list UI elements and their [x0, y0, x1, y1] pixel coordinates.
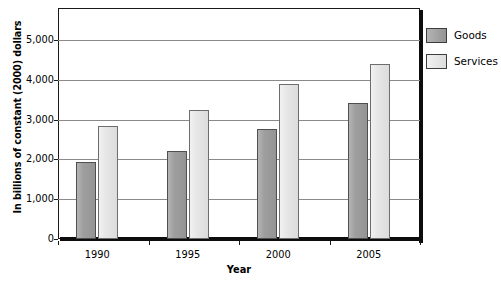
y-tick-label: 3,000	[6, 115, 54, 125]
gridline	[58, 40, 420, 41]
x-tick-mark	[58, 241, 59, 245]
y-axis-tick-labels: 01,0002,0003,0004,0005,000	[0, 0, 54, 282]
x-tick-label: 2000	[248, 249, 308, 260]
plot-right-edge	[419, 10, 423, 243]
bar-services-1990	[98, 126, 118, 239]
x-tick-label: 1990	[67, 249, 127, 260]
y-tick-label: 1,000	[6, 194, 54, 204]
legend-label-services: Services	[454, 55, 498, 67]
legend-item-services: Services	[426, 50, 501, 72]
legend-swatch-goods	[426, 28, 447, 43]
legend-label-goods: Goods	[454, 29, 487, 41]
y-tick-label: 2,000	[6, 154, 54, 164]
bar-goods-1990	[76, 162, 96, 239]
legend-swatch-services	[426, 54, 447, 69]
bar-goods-2005	[348, 103, 368, 239]
y-tick-label: 0	[6, 234, 54, 244]
y-tick-label: 4,000	[6, 75, 54, 85]
legend-item-goods: Goods	[426, 24, 501, 46]
bar-chart: In billions of constant (2000) dollars 0…	[0, 0, 501, 282]
x-tick-mark	[420, 241, 421, 245]
x-tick-label: 1995	[158, 249, 218, 260]
x-tick-mark	[330, 241, 331, 245]
x-tick-mark	[149, 241, 150, 245]
y-tick-mark	[54, 239, 58, 240]
bar-services-2000	[279, 84, 299, 239]
x-axis-title: Year	[58, 264, 420, 275]
bar-goods-2000	[257, 129, 277, 239]
gridline	[58, 80, 420, 81]
bar-services-2005	[370, 64, 390, 239]
x-tick-mark	[239, 241, 240, 245]
bar-services-1995	[189, 110, 209, 239]
y-tick-label: 5,000	[6, 35, 54, 45]
bar-goods-1995	[167, 151, 187, 239]
chart-legend: Goods Services	[426, 24, 501, 76]
x-tick-label: 2005	[339, 249, 399, 260]
